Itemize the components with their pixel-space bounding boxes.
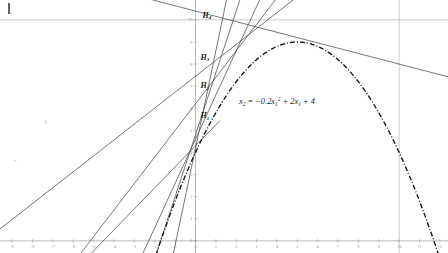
cut-H1: [0, 0, 240, 253]
edge-mark-a: a: [10, 11, 12, 15]
parabola-equation-label: x2 = −0.2x12 + 2x1 + 4: [238, 96, 315, 107]
cut-H2-label: H2: [200, 81, 210, 91]
figure-container: -9-8-7-6-5-4-3-2-10123456789101112 01234…: [0, 0, 448, 253]
x-tick-label: 11: [417, 244, 421, 249]
y-tick-label: 0: [190, 238, 192, 243]
cut-lines-group: [0, 0, 448, 253]
x-tick-label: 2: [235, 244, 237, 249]
y-tick-label: 7: [190, 84, 192, 89]
x-tick-label: -4: [112, 244, 116, 249]
x-tick-label: -8: [31, 244, 35, 249]
steep-line-left: [151, 0, 228, 253]
axes: [0, 0, 448, 253]
y-tick-label: 1: [190, 216, 192, 221]
x-tick-label: 6: [317, 244, 319, 249]
x-tick-label: 9: [378, 244, 380, 249]
x-tick-label: -3: [133, 244, 137, 249]
x-tick-label: 10: [397, 244, 401, 249]
x-tick-label: 8: [357, 244, 359, 249]
chart-canvas: -9-8-7-6-5-4-3-2-10123456789101112 01234…: [0, 0, 448, 253]
x-tick-label: 12: [438, 244, 442, 249]
x-tick-label: -2: [153, 244, 157, 249]
x-tick-label: -7: [51, 244, 55, 249]
y-tick-label: 9: [190, 40, 192, 45]
edge-marks-group: abc: [10, 11, 47, 163]
y-tick-label: 8: [190, 62, 192, 67]
x-tick-label: 7: [337, 244, 339, 249]
cut-H4-label: H4: [202, 11, 212, 21]
x-tick-label: 0: [194, 244, 196, 249]
edge-mark-c: c: [14, 159, 16, 163]
x-tick-label: 1: [215, 244, 217, 249]
parabola-curve: [4, 42, 444, 253]
x-tick-label: 4: [276, 244, 279, 249]
rising-line-lower: [0, 121, 220, 253]
x-tick-label: -6: [72, 244, 76, 249]
cut-H2: [0, 0, 330, 253]
cut-H3-label: H3: [200, 53, 210, 63]
x-tick-label: -5: [92, 244, 96, 249]
y-tick-label: 5: [190, 128, 192, 133]
cut-H3: [0, 0, 362, 229]
y-tick-label: 2: [190, 194, 192, 199]
gridlines: [0, 0, 448, 253]
x-tick-label: -9: [10, 244, 14, 249]
steep-line-right: [134, 0, 260, 253]
edge-mark-b: b: [45, 120, 47, 124]
x-tick-label: 3: [256, 244, 258, 249]
x-tick-label: 5: [296, 244, 298, 249]
y-tick-label: 10: [188, 17, 192, 22]
